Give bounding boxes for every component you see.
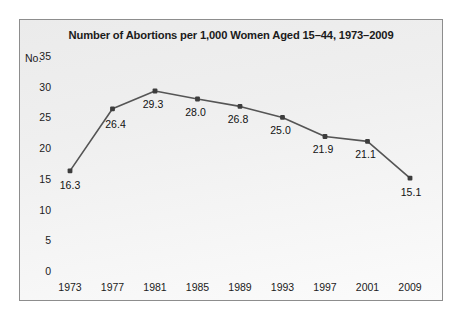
data-point-label: 28.0 [185, 106, 205, 118]
data-point-label: 21.1 [355, 148, 375, 160]
data-point-marker [68, 169, 73, 174]
data-point-marker [323, 134, 328, 139]
x-axis-tick: 1973 [58, 281, 81, 293]
y-axis-tick: 30 [17, 81, 51, 93]
line-series [51, 56, 429, 271]
y-axis-tick: 20 [17, 142, 51, 154]
data-point-label: 29.3 [143, 98, 163, 110]
y-axis-tick-group: 35302520151050 [17, 56, 51, 271]
data-point-marker [195, 97, 200, 102]
plot-area: 35302520151050 1973197719811985198919931… [51, 56, 429, 271]
data-point-marker [365, 139, 370, 144]
data-point-label: 16.3 [60, 179, 80, 191]
chart-frame: Number of Abortions per 1,000 Women Aged… [19, 19, 443, 301]
y-axis-tick: 15 [17, 173, 51, 185]
data-point-label: 25.0 [270, 124, 290, 136]
x-axis-tick: 1989 [228, 281, 251, 293]
x-axis-tick: 1993 [271, 281, 294, 293]
x-axis-tick: 1981 [143, 281, 166, 293]
data-point-label: 26.8 [228, 113, 248, 125]
y-axis-tick: 0 [17, 265, 51, 277]
y-axis-tick: 35 [17, 50, 51, 62]
series-marker-group [68, 89, 413, 181]
y-axis-tick: 25 [17, 111, 51, 123]
data-point-marker [408, 176, 413, 181]
data-point-marker [153, 89, 158, 94]
data-point-marker [280, 115, 285, 120]
x-axis-tick: 2001 [356, 281, 379, 293]
data-point-marker [238, 104, 243, 109]
x-axis-tick: 1997 [313, 281, 336, 293]
y-axis-tick: 5 [17, 234, 51, 246]
data-point-label: 15.1 [401, 186, 421, 198]
x-axis-tick: 1985 [186, 281, 209, 293]
y-axis-tick: 10 [17, 204, 51, 216]
x-axis-tick: 1977 [101, 281, 124, 293]
data-point-marker [110, 106, 115, 111]
data-point-label: 26.4 [105, 118, 125, 130]
chart-title: Number of Abortions per 1,000 Women Aged… [20, 29, 442, 41]
x-axis-tick: 2009 [398, 281, 421, 293]
data-point-label: 21.9 [313, 143, 333, 155]
figure-page: Number of Abortions per 1,000 Women Aged… [0, 0, 459, 327]
